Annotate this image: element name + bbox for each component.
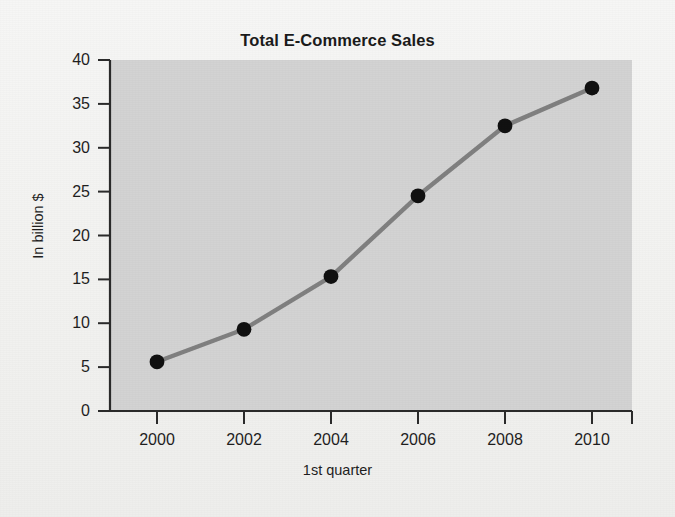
y-tick-label: 35 [38,96,90,112]
data-point-marker [324,269,339,284]
x-tick-label: 2002 [209,432,279,448]
y-axis-label: In billion $ [30,166,46,286]
x-tick-label: 2004 [296,432,366,448]
x-tick-label: 2000 [122,432,192,448]
data-point-marker [150,354,165,369]
y-tick-label: 0 [38,403,90,419]
data-point-marker [237,322,252,337]
y-tick-label: 5 [38,359,90,375]
y-axis-ticks [98,60,110,411]
data-point-marker [498,118,513,133]
data-point-marker [411,188,426,203]
x-tick-label: 2010 [557,432,627,448]
y-tick-label: 30 [38,140,90,156]
data-point-markers [150,81,600,370]
x-axis-label: 1st quarter [0,462,675,478]
y-tick-label: 40 [38,52,90,68]
x-axis-ticks [157,411,632,424]
data-point-marker [585,81,600,96]
x-tick-label: 2008 [470,432,540,448]
data-series-line [157,88,592,362]
y-tick-label: 10 [38,315,90,331]
x-tick-label: 2006 [383,432,453,448]
chart-figure: Total E-Commerce Sales [0,0,675,517]
